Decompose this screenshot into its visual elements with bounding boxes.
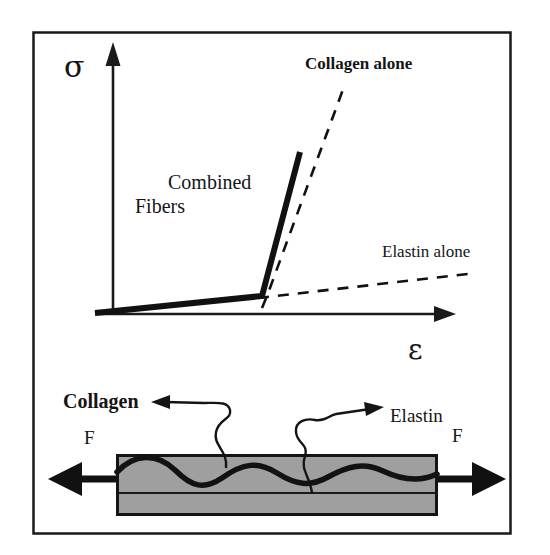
collagen-alone-label: Collagen alone (305, 55, 412, 72)
elastin-alone-label: Elastin alone (382, 243, 470, 260)
combined-fibers-label-line2: Fibers (135, 196, 185, 216)
force-right-label: F (452, 426, 463, 445)
combined-fibers-label-line1: Combined (168, 172, 251, 192)
elastin-schematic-label: Elastin (390, 406, 443, 425)
force-left-label: F (84, 428, 95, 447)
collagen-schematic-label: Collagen (63, 391, 139, 411)
y-axis-label: σ (64, 52, 84, 82)
x-axis-label: ε (408, 336, 423, 364)
